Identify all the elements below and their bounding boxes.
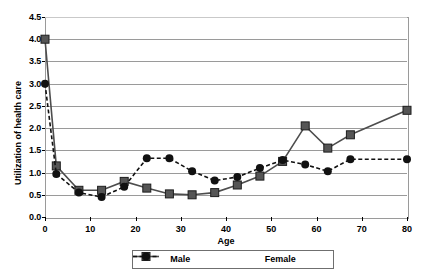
x-tick-mark bbox=[407, 217, 408, 221]
x-tick-label: 30 bbox=[166, 225, 196, 234]
data-point-male bbox=[165, 190, 173, 198]
x-tick-mark bbox=[181, 217, 182, 221]
legend-swatch-female bbox=[133, 251, 159, 262]
data-point-female bbox=[324, 167, 332, 175]
data-point-male bbox=[143, 184, 151, 192]
data-point-male bbox=[403, 106, 411, 114]
data-point-female bbox=[120, 183, 128, 191]
data-point-female bbox=[233, 173, 241, 181]
x-tick-label: 10 bbox=[75, 225, 105, 234]
x-tick-mark bbox=[226, 217, 227, 221]
data-point-female bbox=[188, 167, 196, 175]
data-point-male bbox=[346, 131, 354, 139]
data-point-female bbox=[346, 155, 354, 163]
data-point-female bbox=[75, 189, 83, 197]
series-line-female bbox=[45, 84, 407, 197]
chart-legend: Male Female bbox=[132, 250, 334, 269]
data-point-male bbox=[301, 122, 309, 130]
x-tick-label: 80 bbox=[392, 225, 422, 234]
data-point-male bbox=[233, 181, 241, 189]
series-line-male bbox=[45, 39, 407, 195]
data-point-male bbox=[324, 144, 332, 152]
chart-container: Utilization of health care 0.00.51.01.52… bbox=[0, 0, 424, 272]
legend-label-female: Female bbox=[265, 255, 296, 264]
x-tick-mark bbox=[362, 217, 363, 221]
x-tick-label: 60 bbox=[302, 225, 332, 234]
data-point-female bbox=[256, 164, 264, 172]
data-point-female bbox=[403, 155, 411, 163]
data-point-female bbox=[98, 193, 106, 201]
data-point-female bbox=[165, 154, 173, 162]
x-tick-mark bbox=[317, 217, 318, 221]
data-point-female bbox=[279, 156, 287, 164]
x-tick-mark bbox=[90, 217, 91, 221]
data-point-female bbox=[301, 161, 309, 169]
legend-item-female: Female bbox=[265, 255, 296, 264]
data-point-female bbox=[143, 154, 151, 162]
legend-item-male: Male bbox=[170, 255, 190, 264]
x-axis-title: Age bbox=[180, 236, 272, 246]
x-tick-mark bbox=[45, 217, 46, 221]
x-tick-label: 0 bbox=[30, 225, 60, 234]
x-tick-label: 70 bbox=[347, 225, 377, 234]
legend-label-male: Male bbox=[170, 255, 190, 264]
x-tick-mark bbox=[136, 217, 137, 221]
data-point-male bbox=[188, 191, 196, 199]
data-point-male bbox=[256, 172, 264, 180]
data-point-male bbox=[41, 35, 49, 43]
x-tick-mark bbox=[271, 217, 272, 221]
x-tick-label: 20 bbox=[121, 225, 151, 234]
x-tick-label: 50 bbox=[256, 225, 286, 234]
data-point-female bbox=[211, 177, 219, 185]
x-tick-label: 40 bbox=[211, 225, 241, 234]
data-point-female bbox=[52, 170, 60, 178]
data-point-female bbox=[41, 80, 49, 88]
data-point-male bbox=[211, 189, 219, 197]
